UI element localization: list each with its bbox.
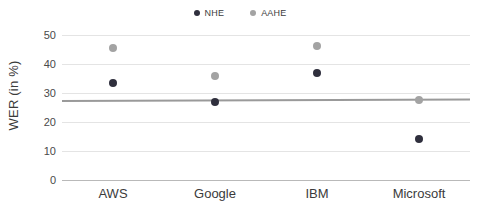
- y-tick-label-20: 20: [34, 116, 56, 128]
- data-point-aahe-aws[interactable]: [109, 44, 117, 52]
- scatter-chart: NHE AAHE WER (in %) 01020304050 AWSGoogl…: [0, 0, 480, 217]
- trendline: [62, 35, 470, 180]
- x-tick-label-microsoft: Microsoft: [393, 186, 446, 201]
- legend-item-nhe[interactable]: NHE: [194, 8, 225, 18]
- data-point-aahe-ibm[interactable]: [313, 42, 321, 50]
- data-point-nhe-google[interactable]: [211, 98, 219, 106]
- y-axis-title: WER (in %): [3, 0, 25, 190]
- data-point-nhe-aws[interactable]: [109, 79, 117, 87]
- x-tick-label-ibm: IBM: [305, 186, 328, 201]
- legend-marker-aahe: [250, 10, 256, 16]
- y-tick-label-10: 10: [34, 145, 56, 157]
- gridline-0: [62, 180, 470, 181]
- x-tick-label-aws: AWS: [98, 186, 127, 201]
- data-point-aahe-google[interactable]: [211, 72, 219, 80]
- y-tick-label-50: 50: [34, 29, 56, 41]
- y-tick-label-40: 40: [34, 58, 56, 70]
- y-tick-label-0: 0: [34, 174, 56, 186]
- data-point-nhe-microsoft[interactable]: [415, 135, 423, 143]
- data-point-nhe-ibm[interactable]: [313, 69, 321, 77]
- legend-label-aahe: AAHE: [261, 8, 286, 18]
- y-tick-label-30: 30: [34, 87, 56, 99]
- legend-marker-nhe: [194, 10, 200, 16]
- x-tick-label-google: Google: [194, 186, 236, 201]
- plot-area: [62, 35, 470, 180]
- chart-legend: NHE AAHE: [0, 6, 480, 20]
- legend-label-nhe: NHE: [205, 8, 225, 18]
- legend-item-aahe[interactable]: AAHE: [250, 8, 286, 18]
- data-point-aahe-microsoft[interactable]: [415, 96, 423, 104]
- y-axis-title-text: WER (in %): [7, 60, 22, 130]
